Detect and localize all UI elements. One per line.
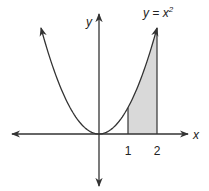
y-axis-label: y <box>85 15 93 29</box>
chart: x y y = x2 12 <box>0 0 209 191</box>
x-axis-label: x <box>192 128 200 142</box>
x-tick-label: 1 <box>125 144 132 158</box>
x-ticks: 12 <box>125 144 161 158</box>
function-label-exponent: 2 <box>168 5 174 14</box>
function-label: y = x2 <box>142 5 174 20</box>
function-label-base: y = x <box>142 6 170 20</box>
x-tick-label: 2 <box>154 144 161 158</box>
